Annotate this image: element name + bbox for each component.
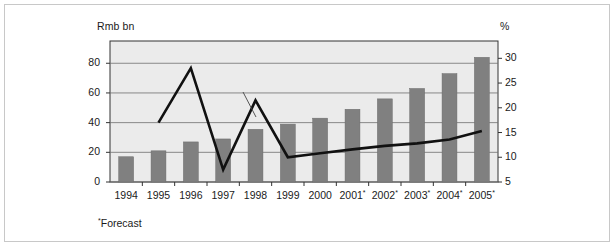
x-tick-year: 2002: [372, 189, 395, 201]
x-tick-label: 1995: [141, 189, 177, 201]
x-tick-year: 2000: [308, 189, 331, 201]
left-tick-label: 20: [78, 145, 100, 157]
chart-figure: Rmb bn % % annual growth, right axis *Fo…: [0, 0, 615, 248]
right-tick-label: 30: [505, 51, 527, 63]
bar: [474, 57, 489, 182]
x-tick-label: 1999: [270, 189, 306, 201]
x-tick-label: 2004*: [432, 189, 468, 201]
left-tick-label: 0: [78, 175, 100, 187]
right-tick-marks-group: [498, 58, 502, 182]
right-tick-label: 10: [505, 150, 527, 162]
bar: [248, 129, 263, 182]
x-tick-year: 1999: [276, 189, 299, 201]
x-tick-year: 1998: [244, 189, 267, 201]
x-tick-label: 2000: [302, 189, 338, 201]
x-tick-forecast-marker: *: [427, 189, 430, 196]
bar: [345, 109, 360, 182]
x-tick-year: 2003: [404, 189, 427, 201]
x-tick-marks-group: [142, 182, 465, 186]
x-tick-label: 1996: [173, 189, 209, 201]
left-tick-label: 60: [78, 86, 100, 98]
x-tick-year: 1996: [179, 189, 202, 201]
x-tick-forecast-marker: *: [395, 189, 398, 196]
x-tick-label: 2005*: [464, 189, 500, 201]
x-tick-label: 2001*: [335, 189, 371, 201]
x-tick-label: 1994: [108, 189, 144, 201]
x-tick-year: 1995: [147, 189, 170, 201]
x-tick-label: 2003*: [399, 189, 435, 201]
plot-background: [110, 41, 498, 182]
x-tick-label: 2002*: [367, 189, 403, 201]
x-tick-forecast-marker: *: [460, 189, 463, 196]
x-tick-label: 1998: [238, 189, 274, 201]
bar: [410, 88, 425, 182]
right-tick-label: 20: [505, 101, 527, 113]
bar: [280, 124, 295, 182]
bar: [183, 142, 198, 182]
x-tick-year: 1997: [211, 189, 234, 201]
x-tick-year: 2004: [436, 189, 459, 201]
left-tick-label: 80: [78, 56, 100, 68]
x-tick-forecast-marker: *: [363, 189, 366, 196]
bar: [119, 157, 134, 182]
bar: [442, 74, 457, 182]
bar: [313, 118, 328, 182]
left-tick-label: 40: [78, 116, 100, 128]
bar: [151, 151, 166, 182]
x-tick-label: 1997: [205, 189, 241, 201]
x-tick-year: 2001: [339, 189, 362, 201]
right-tick-label: 5: [505, 175, 527, 187]
right-tick-label: 25: [505, 76, 527, 88]
left-tick-marks-group: [106, 63, 110, 182]
x-tick-year: 1994: [114, 189, 137, 201]
bar: [377, 99, 392, 182]
x-tick-forecast-marker: *: [492, 189, 495, 196]
plot-background-group: [110, 41, 498, 182]
right-tick-label: 15: [505, 126, 527, 138]
x-tick-year: 2005: [469, 189, 492, 201]
